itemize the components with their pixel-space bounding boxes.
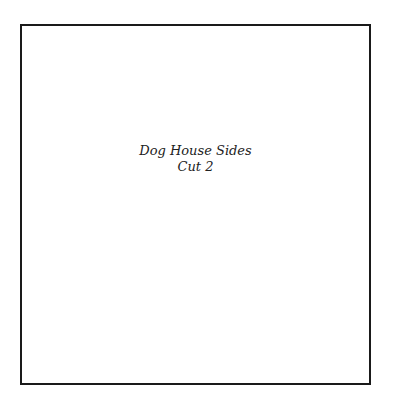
panel-frame: Dog House Sides Cut 2 [20, 24, 371, 385]
panel-subtitle: Cut 2 [22, 159, 369, 175]
panel-title: Dog House Sides [22, 143, 369, 159]
panel-label: Dog House Sides Cut 2 [22, 143, 369, 175]
